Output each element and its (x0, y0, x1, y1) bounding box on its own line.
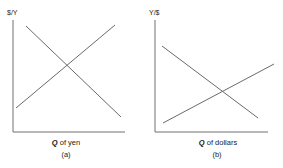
panel-a-x-label: Q of yen (52, 138, 80, 147)
panel-a-upward-line (16, 25, 115, 108)
panel-b-y-label: Y/$ (149, 9, 160, 16)
panel-a-axes (13, 20, 125, 132)
panel-a-lines (16, 25, 121, 117)
panel-a-x-label-text: of yen (58, 138, 81, 147)
panel-b-caption: (b) (212, 150, 221, 159)
panel-b-x-label: Q of dollars (199, 138, 237, 147)
panel-a-downward-line (26, 26, 121, 117)
panel-a-caption: (a) (61, 150, 70, 159)
diagram-canvas (0, 0, 283, 168)
panel-b-downward-line (162, 46, 258, 118)
panel-b-x-label-text: of dollars (205, 138, 238, 147)
panel-a-y-label: $/Y (7, 9, 18, 16)
panel-b-lines (162, 46, 274, 123)
panel-b-upward-line (163, 64, 274, 123)
